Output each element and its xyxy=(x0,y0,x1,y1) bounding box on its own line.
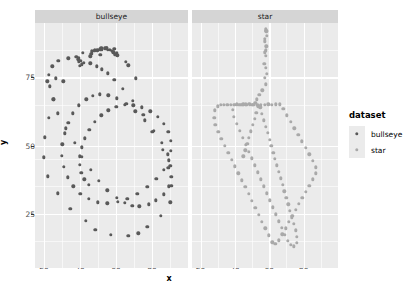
gridline-major-horizontal xyxy=(35,214,188,215)
data-point xyxy=(308,153,311,156)
data-point xyxy=(314,166,317,169)
data-point xyxy=(272,151,275,154)
data-point xyxy=(115,196,118,199)
data-point xyxy=(282,107,285,110)
legend-items: bullseyestar xyxy=(349,126,402,158)
data-point xyxy=(294,229,297,232)
legend-key-swatch xyxy=(349,126,365,142)
facet-panel-star: star xyxy=(192,10,338,268)
data-point xyxy=(270,103,273,106)
legend-item-label: star xyxy=(371,146,386,155)
data-point xyxy=(262,185,265,188)
data-point xyxy=(277,170,280,173)
data-point xyxy=(264,83,267,86)
data-point xyxy=(63,131,66,134)
data-point xyxy=(238,129,241,132)
data-point xyxy=(88,128,91,131)
data-point xyxy=(223,144,226,147)
data-point xyxy=(274,212,277,215)
data-point xyxy=(60,154,63,157)
data-point xyxy=(241,103,244,106)
data-point xyxy=(89,61,92,64)
data-point xyxy=(126,234,129,237)
data-point xyxy=(93,49,96,52)
data-point xyxy=(107,93,110,96)
data-point xyxy=(260,112,263,115)
data-point xyxy=(260,220,263,223)
data-point xyxy=(270,144,273,147)
data-point xyxy=(62,80,65,83)
gridline-major-horizontal xyxy=(35,146,188,147)
plot-area-bullseye xyxy=(35,23,188,268)
data-point xyxy=(89,168,92,171)
data-point xyxy=(254,206,257,209)
data-point xyxy=(169,149,172,152)
data-point xyxy=(250,199,253,202)
x-axis-title: x xyxy=(0,274,338,283)
legend-item-star[interactable]: star xyxy=(349,142,402,158)
data-point xyxy=(116,200,119,203)
data-point xyxy=(156,115,159,118)
data-point xyxy=(91,94,94,97)
data-point xyxy=(265,34,268,37)
data-point xyxy=(264,125,267,128)
data-point xyxy=(293,127,296,130)
gridline-minor-horizontal xyxy=(35,105,188,106)
data-point xyxy=(294,208,297,211)
data-point xyxy=(252,103,255,106)
data-point xyxy=(80,171,83,174)
data-point xyxy=(243,185,246,188)
data-point xyxy=(66,57,69,60)
gridline-minor-horizontal xyxy=(35,186,188,187)
data-point xyxy=(142,113,145,116)
data-point xyxy=(268,199,271,202)
data-point xyxy=(115,97,118,100)
data-point xyxy=(47,73,50,76)
facet-strip-label-bullseye: bullseye xyxy=(35,10,188,23)
data-point xyxy=(68,207,71,210)
data-point xyxy=(47,116,50,119)
data-point xyxy=(50,65,53,68)
data-point xyxy=(62,165,65,168)
data-point xyxy=(134,109,137,112)
data-point xyxy=(166,153,169,156)
data-point xyxy=(152,129,155,132)
gridline-major-vertical xyxy=(235,23,236,268)
data-point xyxy=(304,190,307,193)
data-point xyxy=(235,122,238,125)
data-point xyxy=(285,114,288,117)
data-point xyxy=(247,136,250,139)
data-point xyxy=(84,98,87,101)
data-point xyxy=(278,103,281,106)
gridline-minor-horizontal xyxy=(192,241,338,242)
data-point xyxy=(137,231,140,234)
data-point xyxy=(259,178,262,181)
data-point xyxy=(143,119,146,122)
data-point xyxy=(257,213,260,216)
data-point xyxy=(100,114,103,117)
data-point xyxy=(311,159,314,162)
scatter-plot-figure: y 255075 2040608020406080 x bullseye sta… xyxy=(0,0,414,292)
data-point xyxy=(100,68,103,71)
data-point xyxy=(162,168,165,171)
data-point xyxy=(136,192,139,195)
data-point xyxy=(264,54,267,57)
data-point xyxy=(123,103,126,106)
data-point xyxy=(79,192,82,195)
data-point xyxy=(265,45,268,48)
legend-item-bullseye[interactable]: bullseye xyxy=(349,126,402,142)
legend: dataset bullseyestar xyxy=(349,110,402,158)
data-point xyxy=(226,151,229,154)
data-point xyxy=(256,171,259,174)
data-point xyxy=(98,92,101,95)
data-point xyxy=(169,200,172,203)
data-point xyxy=(66,121,69,124)
data-point xyxy=(88,55,91,58)
data-point xyxy=(286,239,289,242)
data-point xyxy=(295,241,298,244)
data-point xyxy=(107,108,110,111)
data-point xyxy=(134,77,137,80)
data-point xyxy=(251,123,254,126)
data-point xyxy=(314,172,317,175)
data-point xyxy=(271,206,274,209)
